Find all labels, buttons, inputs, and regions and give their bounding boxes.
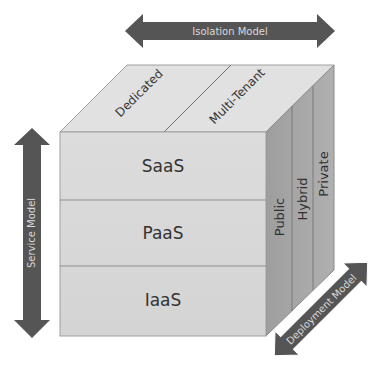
isolation-model-arrow: Isolation Model xyxy=(125,14,335,48)
service-saas-label: SaaS xyxy=(142,156,184,176)
service-paas-label: PaaS xyxy=(142,223,183,243)
cloud-cube-diagram: Isolation Model Service Model Dedicated … xyxy=(0,0,379,367)
diagram-canvas: Isolation Model Service Model Dedicated … xyxy=(0,0,379,367)
cube-front-face: SaaS PaaS IaaS xyxy=(60,132,266,336)
service-iaas-label: IaaS xyxy=(145,290,182,310)
service-model-label: Service Model xyxy=(26,198,37,268)
deployment-hybrid-label: Hybrid xyxy=(295,178,310,221)
deployment-private-label: Private xyxy=(316,151,331,196)
service-model-arrow: Service Model xyxy=(14,128,50,338)
isolation-model-label: Isolation Model xyxy=(192,26,268,37)
deployment-public-label: Public xyxy=(272,198,287,236)
